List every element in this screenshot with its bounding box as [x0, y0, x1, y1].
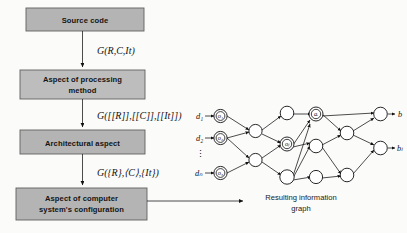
- graph-edge: [293, 177, 311, 180]
- graph-edge: [322, 147, 341, 174]
- output-b-label: b: [398, 110, 402, 119]
- graph-edge: [262, 162, 281, 175]
- diagram-svg: Source code Aspect of processing method …: [0, 0, 407, 233]
- flow-box-aspect-processing-method-label-line1: Aspect of processing: [43, 75, 122, 84]
- input-vertical-ellipsis: ⋮: [196, 149, 205, 159]
- formula-1: G(R,C,It): [97, 45, 135, 57]
- graph-node-hidden[interactable]: [249, 153, 262, 166]
- flow-box-aspect-computer-system-configuration-label-line2: system's configuration: [39, 205, 124, 214]
- flow-box-source-code[interactable]: Source code: [26, 8, 144, 31]
- graph-caption-line2: graph: [291, 204, 310, 213]
- graph-node-hidden[interactable]: [280, 170, 294, 184]
- flow-box-architectural-aspect[interactable]: Architectural aspect: [20, 130, 145, 154]
- graph-node-ai-label: aᵢ: [314, 110, 318, 117]
- flow-box-aspect-processing-method[interactable]: Aspect of processing method: [20, 70, 145, 99]
- graph-edge: [293, 124, 310, 176]
- graph-node-hidden[interactable]: [340, 168, 354, 182]
- graph-node-o3-label: o₃: [218, 169, 223, 176]
- flow-box-aspect-computer-system-configuration-label-line1: Aspect of computer: [45, 194, 118, 203]
- graph-edge: [227, 162, 249, 173]
- graph-edge: [322, 135, 341, 145]
- graph-node-hidden[interactable]: [249, 124, 262, 137]
- flow-box-architectural-aspect-label: Architectural aspect: [45, 139, 120, 148]
- graph-edge: [353, 135, 374, 145]
- graph-node-o2[interactable]: o₂: [214, 131, 227, 144]
- input-d1-label: d₁: [196, 112, 203, 121]
- graph-node-hidden[interactable]: [280, 106, 294, 120]
- input-d2-label: d₂: [196, 134, 203, 143]
- graph-node-hidden[interactable]: [309, 170, 322, 183]
- formula-3: G({R},⟨C⟩,{It}): [97, 167, 159, 179]
- graph-node-output-bL[interactable]: [374, 141, 388, 155]
- graph-edge: [322, 113, 374, 116]
- graph-node-hidden[interactable]: [309, 139, 323, 153]
- graph-node-o1-label: o₁: [218, 112, 223, 119]
- graph-edge: [262, 116, 281, 130]
- graph-edge: [227, 138, 249, 158]
- graph-edge: [322, 176, 341, 178]
- flow-box-source-code-label: Source code: [62, 16, 109, 25]
- graph-node-output-b[interactable]: [374, 107, 388, 121]
- flow-box-aspect-processing-method-label-line2: method: [68, 86, 96, 95]
- graph-node-o1[interactable]: o₁: [214, 109, 227, 122]
- output-bL-label: bₗ: [397, 144, 403, 153]
- graph-node-o3[interactable]: o₃: [214, 166, 227, 179]
- graph-edge: [227, 116, 249, 130]
- graph-node-hidden[interactable]: [340, 126, 354, 140]
- graph-node-ai[interactable]: aᵢ: [309, 107, 323, 121]
- graph-edge: [293, 143, 310, 147]
- diagram-canvas: Source code Aspect of processing method …: [0, 0, 407, 233]
- graph-edge: [353, 118, 374, 131]
- input-dN-label: dₙ: [195, 169, 203, 178]
- graph-edge: [227, 132, 249, 138]
- formula-2: G([[R]],[[C]],[[It]]): [97, 110, 182, 122]
- graph-edge: [353, 150, 374, 174]
- graph-edge: [262, 134, 281, 143]
- graph-caption-line1: Resulting information: [265, 193, 336, 202]
- graph-edge: [262, 145, 281, 158]
- graph-node-o2-label: o₂: [218, 134, 224, 141]
- graph-node-oj[interactable]: oⱼ: [280, 137, 294, 151]
- graph-edge: [322, 114, 341, 131]
- flow-box-aspect-computer-system-configuration[interactable]: Aspect of computer system's configuratio…: [16, 188, 147, 220]
